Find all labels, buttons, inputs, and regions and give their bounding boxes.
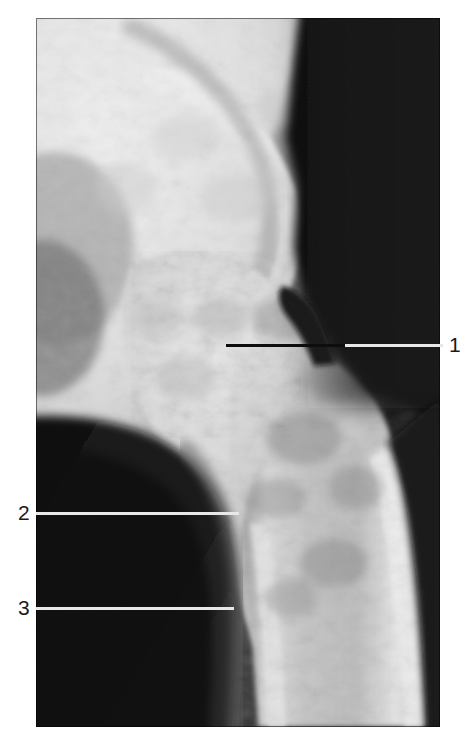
- xray-image: [36, 18, 440, 727]
- leader-line-2[interactable]: [36, 512, 239, 515]
- leader-line-3[interactable]: [36, 607, 234, 610]
- annotation-label-3[interactable]: 3: [18, 597, 30, 618]
- leader-line-1-dark[interactable]: [226, 344, 345, 347]
- film-grain: [36, 18, 440, 727]
- annotation-label-1[interactable]: 1: [449, 334, 461, 355]
- xray-canvas: [36, 18, 440, 727]
- leader-line-1-light[interactable]: [345, 344, 443, 347]
- annotation-label-2[interactable]: 2: [18, 502, 30, 523]
- radiograph-figure: 1 2 3: [0, 0, 473, 745]
